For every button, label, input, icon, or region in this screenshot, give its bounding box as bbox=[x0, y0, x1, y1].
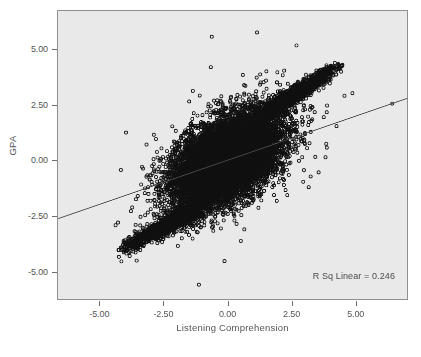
y-tick-label: -2.50 bbox=[10, 211, 48, 221]
scatter-plot-figure: GPA 5.002.500.00-2.50-5.00 R Sq Linear =… bbox=[0, 0, 421, 357]
y-tick-label: 5.00 bbox=[10, 44, 48, 54]
x-tick-label: 5.00 bbox=[347, 309, 364, 319]
x-axis-title: Listening Comprehension bbox=[57, 322, 408, 333]
x-tick-mark bbox=[99, 301, 100, 306]
plot-area: R Sq Linear = 0.246 bbox=[57, 10, 408, 300]
x-tick-label: 0.00 bbox=[219, 309, 236, 319]
y-tick-label: 2.50 bbox=[10, 100, 48, 110]
y-tick-label: 0.00 bbox=[10, 155, 48, 165]
y-tick-label: -5.00 bbox=[10, 267, 48, 277]
r-squared-annotation: R Sq Linear = 0.246 bbox=[313, 271, 395, 281]
x-tick-label: -2.50 bbox=[153, 309, 173, 319]
x-tick-mark bbox=[163, 301, 164, 306]
x-tick-mark bbox=[356, 301, 357, 306]
x-tick-mark bbox=[292, 301, 293, 306]
x-tick-label: -5.00 bbox=[89, 309, 109, 319]
scatter-points-layer bbox=[58, 11, 407, 299]
x-tick-mark bbox=[228, 301, 229, 306]
x-tick-label: 2.50 bbox=[283, 309, 300, 319]
